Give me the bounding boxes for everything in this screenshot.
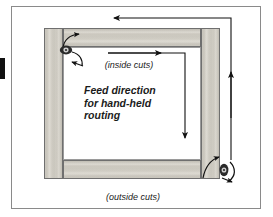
router-bit-bottom-right-exit-curve <box>229 162 234 181</box>
router-bit-top-left-group <box>60 34 83 66</box>
feed-caption-line-2: for hand-held <box>84 97 168 110</box>
router-bit-top-left-icon <box>60 46 72 55</box>
feed-caption-line-1: Feed direction <box>84 84 168 97</box>
routing-feed-direction-figure: (inside cuts) Feed direction for hand-he… <box>0 0 273 217</box>
inside-cuts-label: (inside cuts) <box>81 60 177 70</box>
router-bit-bottom-right-icon <box>220 164 229 176</box>
router-bit-bottom-right-entry-arrow <box>203 157 219 178</box>
outside-cuts-label: (outside cuts) <box>78 192 188 202</box>
feed-direction-caption: Feed direction for hand-held routing <box>84 84 168 122</box>
router-bit-bottom-right-group <box>203 157 234 182</box>
feed-caption-line-3: routing <box>84 109 168 122</box>
